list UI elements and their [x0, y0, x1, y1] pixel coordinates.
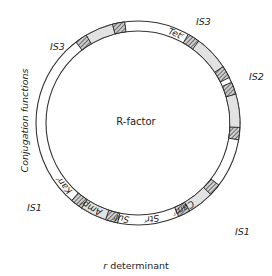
is-label-is3-top-left: IS3 — [50, 41, 65, 52]
bottom-caption-text: determinant — [110, 260, 169, 271]
is-label-layer: IS3IS3IS2IS1IS1 — [0, 0, 272, 276]
is-label-is1-right: IS1 — [235, 226, 250, 237]
is-label-is3-top-right: IS3 — [196, 16, 211, 27]
center-label: R-factor — [0, 116, 272, 127]
is-label-is2-right: IS2 — [249, 71, 264, 82]
bottom-caption: r determinant — [0, 260, 272, 271]
is-label-is1-left: IS1 — [27, 202, 42, 213]
figure-canvas: TetʳCamʳStrʳSulʳAmpʳKanʳ IS3IS3IS2IS1IS1… — [0, 0, 272, 276]
side-caption: Conjugation functions — [19, 56, 30, 186]
